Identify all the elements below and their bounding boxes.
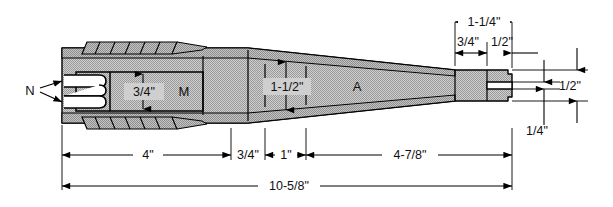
dim-label-34-inner: 3/4" bbox=[133, 85, 155, 99]
tip-slot bbox=[487, 82, 512, 89]
dim-label-112: 1-1/2" bbox=[271, 80, 304, 94]
dim-label-overall: 10-5/8" bbox=[269, 179, 309, 193]
dim-label-12-right: 1/2" bbox=[559, 79, 581, 93]
upper-hatch-band bbox=[82, 42, 207, 54]
part-label-m: M bbox=[179, 84, 190, 99]
drawing-canvas: N 3/4" M 1-1/2" A 1-1/4" 3/4" 1/2" bbox=[0, 0, 613, 207]
dim-label-34-top: 3/4" bbox=[457, 35, 479, 49]
dim-label-14-right: 1/4" bbox=[526, 124, 548, 138]
lower-hatch-band bbox=[82, 117, 207, 129]
dim-label-34-bottom: 3/4" bbox=[237, 148, 259, 162]
dim-label-4in: 4" bbox=[142, 148, 153, 162]
technical-drawing-svg: N 3/4" M 1-1/2" A 1-1/4" 3/4" 1/2" bbox=[0, 0, 613, 207]
dim-label-1in: 1" bbox=[280, 148, 291, 162]
part-label-n: N bbox=[25, 83, 34, 98]
dim-label-478: 4-7/8" bbox=[394, 148, 427, 162]
part-label-a: A bbox=[353, 79, 362, 94]
dim-label-114: 1-1/4" bbox=[468, 15, 501, 29]
dim-label-12-top: 1/2" bbox=[491, 35, 513, 49]
